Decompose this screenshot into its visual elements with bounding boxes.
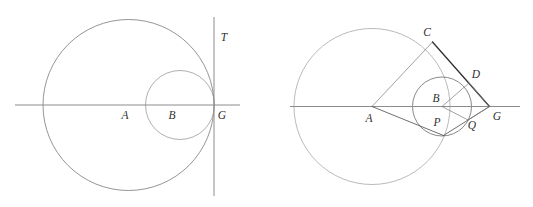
canvas-background [0, 0, 533, 207]
label-B: B [168, 109, 175, 121]
geometry-figure-canvas: ABGT ABCDPQG [0, 0, 533, 207]
label-A: A [364, 112, 373, 124]
label-A: A [120, 109, 129, 121]
label-C: C [423, 26, 431, 38]
label-Q: Q [468, 119, 477, 131]
label-G: G [493, 110, 502, 122]
label-B: B [432, 92, 439, 104]
label-D: D [471, 68, 481, 80]
label-G: G [218, 109, 227, 121]
label-P: P [432, 116, 440, 128]
